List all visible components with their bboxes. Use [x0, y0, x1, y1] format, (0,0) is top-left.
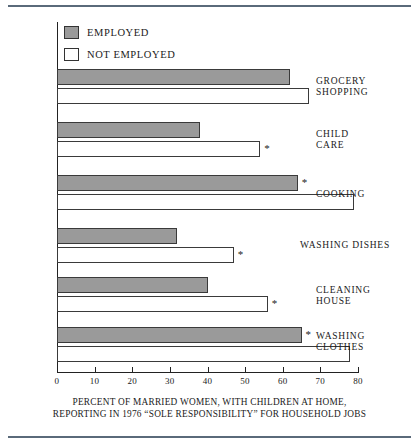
x-tick-10 — [95, 367, 96, 373]
category-label-3: WASHING DISHES — [300, 240, 390, 251]
bar-not-employed-0 — [57, 88, 309, 104]
x-tick-70 — [320, 367, 321, 373]
caption-line-2: REPORTING IN 1976 “SOLE RESPONSIBILITY” … — [0, 408, 419, 420]
chart-caption: PERCENT OF MARRIED WOMEN, WITH CHILDREN … — [0, 396, 419, 420]
x-tick-label-70: 70 — [316, 376, 326, 386]
bar-not-employed-5 — [57, 346, 350, 362]
bar-not-employed-1 — [57, 141, 260, 157]
chart-figure: 01020304050607080 EMPLOYED NOT EMPLOYED … — [0, 0, 419, 444]
x-tick-label-10: 10 — [90, 376, 100, 386]
x-tick-label-20: 20 — [127, 376, 137, 386]
bar-employed-3 — [57, 228, 177, 244]
category-label-0: GROCERY SHOPPING — [316, 76, 368, 98]
significance-marker-4-1: * — [272, 298, 278, 309]
bar-employed-0 — [57, 69, 290, 85]
x-tick-label-30: 30 — [165, 376, 175, 386]
legend-swatch-not-employed-icon — [64, 48, 79, 61]
bar-employed-1 — [57, 122, 200, 138]
legend: EMPLOYED NOT EMPLOYED — [64, 26, 175, 70]
bar-employed-5 — [57, 327, 302, 343]
bar-not-employed-3 — [57, 247, 234, 263]
x-tick-label-50: 50 — [240, 376, 250, 386]
x-tick-label-40: 40 — [203, 376, 213, 386]
significance-marker-1-1: * — [264, 143, 270, 154]
legend-item-employed: EMPLOYED — [64, 26, 175, 39]
category-label-2: COOKING — [316, 189, 365, 200]
bar-employed-2 — [57, 175, 298, 191]
category-label-5: WASHING CLOTHES — [316, 331, 365, 353]
x-tick-60 — [283, 367, 284, 373]
plot-area: 01020304050607080 EMPLOYED NOT EMPLOYED … — [0, 0, 419, 444]
x-tick-0 — [57, 367, 58, 373]
bar-not-employed-4 — [57, 296, 268, 312]
bar-not-employed-2 — [57, 194, 354, 210]
legend-label-employed: EMPLOYED — [87, 27, 149, 38]
category-label-1: CHILD CARE — [316, 129, 349, 151]
x-tick-label-60: 60 — [278, 376, 288, 386]
x-tick-label-0: 0 — [55, 376, 60, 386]
significance-marker-2-0: * — [302, 177, 308, 188]
x-tick-40 — [208, 367, 209, 373]
significance-marker-3-1: * — [238, 249, 244, 260]
legend-swatch-employed-icon — [64, 26, 79, 39]
x-tick-50 — [245, 367, 246, 373]
x-tick-label-80: 80 — [353, 376, 363, 386]
x-tick-80 — [358, 367, 359, 373]
x-tick-30 — [170, 367, 171, 373]
caption-line-1: PERCENT OF MARRIED WOMEN, WITH CHILDREN … — [0, 396, 419, 408]
legend-item-not-employed: NOT EMPLOYED — [64, 48, 175, 61]
legend-label-not-employed: NOT EMPLOYED — [87, 49, 175, 60]
x-tick-20 — [132, 367, 133, 373]
category-label-4: CLEANING HOUSE — [316, 285, 371, 307]
bar-employed-4 — [57, 277, 208, 293]
significance-marker-5-0: * — [306, 329, 312, 340]
